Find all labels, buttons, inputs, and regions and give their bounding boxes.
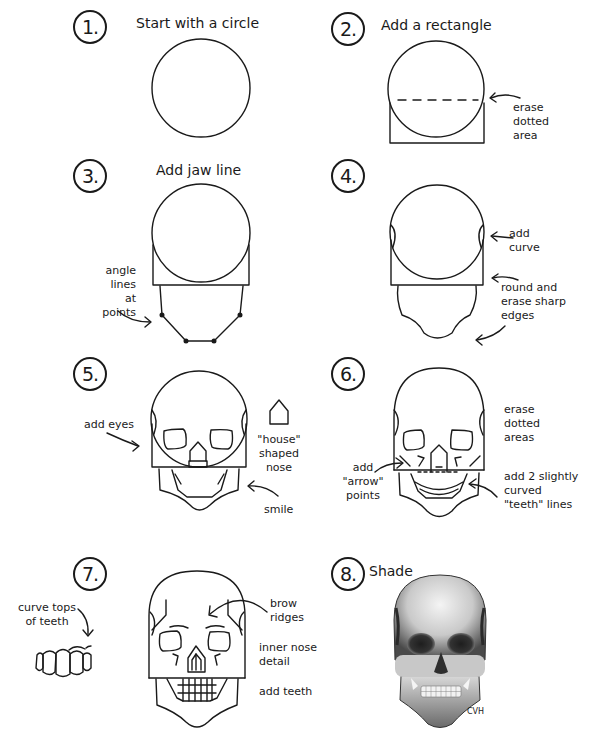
shaded-skull-illustration	[0, 0, 598, 755]
artist-signature: CVH	[467, 707, 484, 716]
